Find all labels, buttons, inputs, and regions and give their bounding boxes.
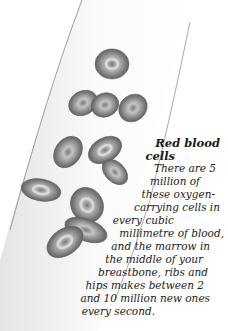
- caption-line: the middle of your: [105, 253, 203, 266]
- caption-line: hips makes between 2: [86, 279, 204, 292]
- caption-line: millimetre of blood,: [119, 227, 224, 240]
- caption-line: every second.: [82, 305, 155, 318]
- caption-line: There are 5: [154, 162, 216, 175]
- caption-line: breastbone, ribs and: [98, 266, 208, 279]
- caption-line: and the marrow in: [111, 240, 210, 253]
- caption-line: million of: [150, 175, 200, 188]
- caption-line: carrying cells in: [134, 201, 220, 214]
- caption-line: every cubic: [113, 214, 174, 227]
- caption-line: these oxygen-: [141, 188, 215, 201]
- caption: Red blood cells There are 5 million of t…: [0, 0, 228, 331]
- caption-line: and 10 million new ones: [80, 292, 210, 305]
